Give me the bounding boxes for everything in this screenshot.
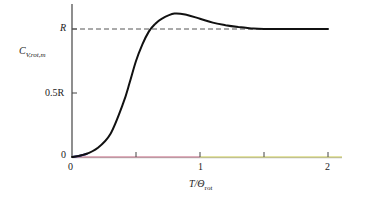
heat-capacity-curve [72, 13, 328, 157]
y-axis-label-main: C [19, 45, 26, 56]
x-axis-label: T/Θrot [189, 179, 212, 192]
x-tick-label-one: 1 [198, 162, 203, 172]
y-axis-label-sub: V,rot,m [26, 51, 46, 59]
x-axis-label-main: T/Θ [189, 178, 205, 189]
y-tick-label-half-R: 0.5R [45, 88, 64, 98]
axes [72, 4, 342, 158]
y-tick-label-half-R-text: 0.5R [45, 87, 64, 98]
y-tick-label-zero: 0 [61, 150, 66, 160]
x-tick-label-zero: 0 [68, 162, 73, 172]
x-axis-label-sub: rot [205, 184, 213, 192]
y-axis-label: CV,rot,m [19, 46, 46, 59]
chart-plot-area [0, 0, 369, 201]
x-tick-label-two: 2 [325, 162, 330, 172]
y-tick-label-R: R [60, 23, 66, 33]
